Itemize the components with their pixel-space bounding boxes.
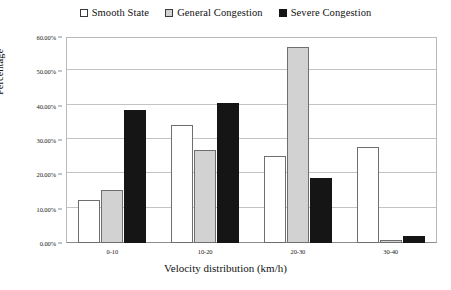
y-tick-mark <box>58 105 62 106</box>
gray-square-swatch-icon <box>165 9 173 17</box>
y-axis-title: Percentage <box>0 49 5 95</box>
y-tick-mark <box>58 174 62 175</box>
legend-item-general-congestion: General Congestion <box>165 8 263 19</box>
open-square-swatch-icon <box>80 9 88 17</box>
x-tick-label: 30-40 <box>383 248 398 255</box>
y-tick-label: 10.00% <box>37 205 56 212</box>
legend-label-severe-congestion: Severe Congestion <box>291 8 372 19</box>
bar-severe-30-40 <box>403 236 425 243</box>
legend-item-smooth-state: Smooth State <box>80 8 150 19</box>
black-square-swatch-icon <box>279 9 287 17</box>
y-tick-mark <box>58 37 62 38</box>
legend-label-smooth-state: Smooth State <box>92 8 150 19</box>
bar-general-0-10 <box>101 190 123 243</box>
chart-legend: Smooth State General Congestion Severe C… <box>0 8 451 19</box>
bar-general-30-40 <box>380 240 402 243</box>
x-tick-label: 0-10 <box>107 248 119 255</box>
legend-label-general-congestion: General Congestion <box>177 8 263 19</box>
x-tick-label: 10-20 <box>198 248 213 255</box>
bar-severe-20-30 <box>310 178 332 243</box>
legend-item-severe-congestion: Severe Congestion <box>279 8 372 19</box>
bar-smooth-10-20 <box>171 125 193 243</box>
bar-chart: Smooth State General Congestion Severe C… <box>0 0 451 290</box>
bar-severe-0-10 <box>124 110 146 243</box>
y-tick-label: 60.00% <box>37 34 56 41</box>
bar-smooth-20-30 <box>264 156 286 243</box>
y-tick-mark <box>58 140 62 141</box>
y-axis: 0.00%10.00%20.00%30.00%40.00%50.00%60.00… <box>20 30 62 250</box>
y-tick-mark <box>58 71 62 72</box>
bar-severe-10-20 <box>217 103 239 243</box>
bar-general-10-20 <box>194 150 216 243</box>
x-axis: 0-1010-2020-3030-40 <box>66 248 437 260</box>
y-tick-label: 0.00% <box>40 240 56 247</box>
y-tick-label: 20.00% <box>37 171 56 178</box>
bar-smooth-0-10 <box>78 200 100 243</box>
y-tick-mark <box>58 208 62 209</box>
bar-smooth-30-40 <box>357 147 379 243</box>
y-tick-label: 40.00% <box>37 102 56 109</box>
bar-general-20-30 <box>287 47 309 243</box>
x-axis-title: Velocity distribution (km/h) <box>0 262 451 274</box>
x-tick-label: 20-30 <box>291 248 306 255</box>
y-tick-label: 30.00% <box>37 137 56 144</box>
y-tick-mark <box>58 243 62 244</box>
bars-layer <box>66 37 437 243</box>
y-tick-label: 50.00% <box>37 68 56 75</box>
